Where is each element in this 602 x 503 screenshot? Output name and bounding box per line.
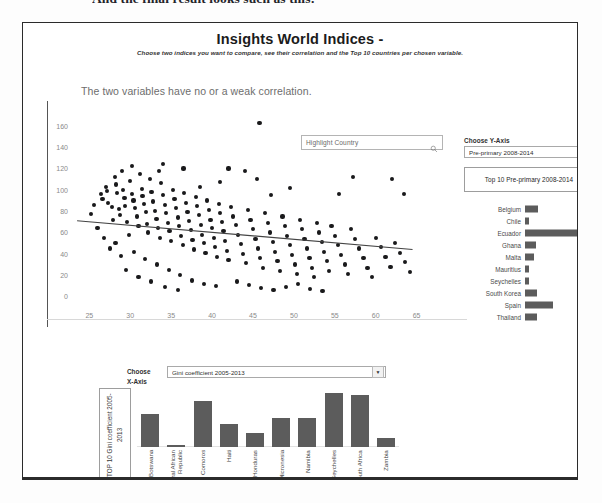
bar-column[interactable]: Comoros xyxy=(189,388,215,478)
bar-fill xyxy=(377,438,395,447)
bar-label: Thailand xyxy=(464,314,525,321)
x-axis-tick: 25 xyxy=(85,312,93,319)
list-item[interactable]: Chile xyxy=(464,215,578,227)
bar-label: Comoros xyxy=(199,450,206,478)
bar-column[interactable]: Central African Republic xyxy=(163,388,189,478)
list-item[interactable]: South Korea xyxy=(464,287,578,299)
bar-track xyxy=(525,203,578,215)
bar-label: Mauritius xyxy=(464,266,525,273)
bar-column[interactable]: Namibia xyxy=(294,388,320,478)
bar-columns: BotswanaCentral African RepublicComorosH… xyxy=(137,388,399,478)
list-item[interactable]: Spain xyxy=(464,299,578,311)
bar-track xyxy=(525,263,578,275)
list-item[interactable]: Seychelles xyxy=(464,275,578,287)
scanned-page: And the final result looks such as this:… xyxy=(0,0,602,503)
bar-fill xyxy=(525,302,553,309)
bar-label: Chile xyxy=(464,218,525,225)
bar-label: Honduras xyxy=(251,450,258,478)
list-item[interactable]: Belgium xyxy=(464,203,578,215)
top10-x-heading-box: TOP 10 Gini coefficient 2005-2013 xyxy=(99,388,131,478)
bar-label: Micronesia xyxy=(278,450,285,478)
bar-fill xyxy=(525,278,529,285)
bar-column[interactable]: Seychelles xyxy=(320,388,346,478)
chevron-down-icon[interactable]: ▼ xyxy=(372,366,384,378)
bar-column[interactable]: Haiti xyxy=(216,388,242,478)
y-axis-tick: 140 xyxy=(56,144,68,151)
bar-fill xyxy=(525,314,537,321)
bar-track xyxy=(525,287,578,299)
y-axis-tick: 60 xyxy=(60,229,68,236)
bar-label: Central African Republic xyxy=(169,450,183,478)
list-item[interactable]: Ecuador xyxy=(464,227,578,239)
search-icon xyxy=(430,139,438,147)
bar-track xyxy=(525,239,578,251)
bar-fill xyxy=(525,242,536,249)
bar-label: Botswana xyxy=(147,450,154,478)
correlation-statement: The two variables have no or a weak corr… xyxy=(81,85,312,97)
bar-label: Malta xyxy=(464,254,525,261)
dashboard-card: Insights World Indices - Choose two indi… xyxy=(22,22,578,478)
bar-column[interactable]: Micronesia xyxy=(268,388,294,478)
y-axis-line xyxy=(47,101,48,327)
list-item[interactable]: Mauritius xyxy=(464,263,578,275)
bar-label: South Africa xyxy=(356,450,363,478)
bar-fill xyxy=(525,254,534,261)
top10-y-heading-box: Top 10 Pre-primary 2008-2014 xyxy=(464,167,578,192)
scan-headline-text: And the final result looks such as this: xyxy=(92,0,422,4)
bar-track xyxy=(525,215,578,227)
bar-track xyxy=(163,389,189,447)
x-axis-tick: 55 xyxy=(331,312,339,319)
x-axis-tick: 50 xyxy=(290,312,298,319)
bar-label: Zambia xyxy=(382,450,389,478)
bar-fill xyxy=(298,418,316,447)
y-axis-tick: 20 xyxy=(60,272,68,279)
bar-fill xyxy=(351,395,369,447)
list-item[interactable]: Malta xyxy=(464,251,578,263)
bar-column[interactable]: Zambia xyxy=(373,388,399,478)
x-axis-tick: 65 xyxy=(413,312,421,319)
x-axis-control: Choose X-Axis Gini coefficient 2005-2013… xyxy=(127,366,386,386)
bar-fill xyxy=(246,433,264,447)
bar-track xyxy=(525,227,578,239)
bar-track xyxy=(216,389,242,447)
bar-column[interactable]: Honduras xyxy=(242,388,268,478)
bar-label: Ecuador xyxy=(464,230,525,237)
bar-fill xyxy=(167,445,185,447)
bar-fill xyxy=(194,401,212,447)
bar-label: Seychelles xyxy=(330,450,337,478)
search-input[interactable]: Highlight Country xyxy=(306,139,430,146)
bar-fill xyxy=(272,418,290,447)
page-subtitle: Choose two indices you want to compare, … xyxy=(23,49,577,56)
bar-label: Ghana xyxy=(464,242,525,249)
bar-track xyxy=(189,389,215,447)
x-axis-tick: 30 xyxy=(126,312,134,319)
y-axis-tick: 40 xyxy=(60,250,68,257)
top10-y-heading: Top 10 Pre-primary 2008-2014 xyxy=(485,176,573,183)
page-title: Insights World Indices - xyxy=(23,31,577,47)
bar-track xyxy=(525,251,578,263)
x-axis-dropdown[interactable]: Gini coefficient 2005-2013 ▼ xyxy=(167,366,386,378)
highlight-country-search[interactable]: Highlight Country xyxy=(301,135,443,150)
top10-y-bar-chart: BelgiumChileEcuadorGhanaMaltaMauritiusSe… xyxy=(464,203,578,323)
list-item[interactable]: Thailand xyxy=(464,311,578,323)
bar-column[interactable]: South Africa xyxy=(347,388,373,478)
bar-column[interactable]: Botswana xyxy=(137,388,163,478)
bar-fill xyxy=(141,414,159,447)
scan-bottom-rule xyxy=(22,478,578,480)
bar-fill xyxy=(525,230,578,237)
choose-x-axis-label-line2: X-Axis xyxy=(127,377,167,387)
x-axis-dropdown-value: Gini coefficient 2005-2013 xyxy=(172,369,372,376)
y-axis-dropdown[interactable]: Pre-primary 2008-2014 ▼ xyxy=(464,146,578,158)
x-axis-tick: 45 xyxy=(249,312,257,319)
bar-track xyxy=(373,389,399,447)
choose-x-axis-label-line1: Choose xyxy=(127,367,167,377)
bar-fill xyxy=(220,424,238,447)
bar-label: Spain xyxy=(464,302,525,309)
bar-track xyxy=(525,275,578,287)
y-axis-dropdown-value: Pre-primary 2008-2014 xyxy=(469,149,578,156)
list-item[interactable]: Ghana xyxy=(464,239,578,251)
top10-x-bar-chart: TOP 10 Gini coefficient 2005-2013 Botswa… xyxy=(99,388,399,478)
x-axis-tick: 60 xyxy=(372,312,380,319)
bar-track xyxy=(268,389,294,447)
x-axis-tick: 40 xyxy=(208,312,216,319)
